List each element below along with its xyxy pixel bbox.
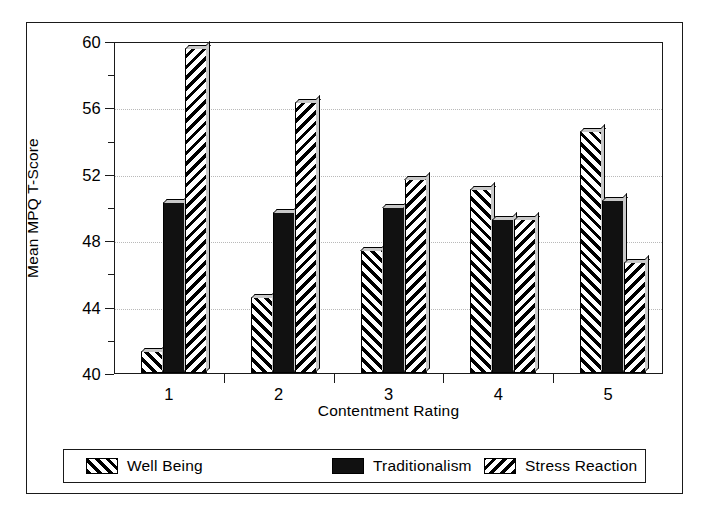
y-axis-tick-major <box>105 42 114 43</box>
y-axis-tick-major <box>105 108 114 109</box>
x-axis-tick-label: 5 <box>588 386 628 403</box>
y-axis-tick-major <box>105 175 114 176</box>
bar <box>514 219 536 373</box>
legend-swatch <box>332 458 364 474</box>
bar <box>580 131 602 373</box>
bar <box>492 219 514 373</box>
bar <box>273 212 295 373</box>
x-axis-tick-label: 4 <box>478 386 518 403</box>
bar-side-face <box>316 95 320 372</box>
legend-label: Well Being <box>127 457 203 475</box>
x-axis-tick <box>553 374 554 383</box>
bar-side-face <box>535 212 539 372</box>
bar <box>251 297 273 373</box>
y-axis-tick-minor <box>108 341 114 342</box>
x-axis-tick <box>334 374 335 383</box>
bar <box>141 351 163 373</box>
x-axis-tick <box>224 374 225 383</box>
y-axis-title-label: Mean MPQ T-Score <box>24 138 42 278</box>
x-axis-tick-label: 1 <box>149 386 189 403</box>
y-axis-tick-minor <box>108 208 114 209</box>
legend-swatch <box>86 458 118 474</box>
bars-layer <box>115 43 662 373</box>
y-axis-tick-label: 48 <box>61 233 101 250</box>
y-axis-title: Mean MPQ T-Score <box>22 42 44 374</box>
bar <box>361 250 383 373</box>
y-axis-tick-major <box>105 374 114 375</box>
y-axis-tick-minor <box>108 142 114 143</box>
bar <box>405 179 427 373</box>
legend-swatch <box>484 458 516 474</box>
legend-entry: Traditionalism <box>332 450 472 482</box>
legend-label: Stress Reaction <box>525 457 637 475</box>
y-axis-tick-label: 44 <box>61 299 101 316</box>
bar <box>383 207 405 373</box>
x-axis-title: Contentment Rating <box>114 402 663 420</box>
y-axis-tick-minor <box>108 75 114 76</box>
bar-side-face <box>426 172 430 372</box>
legend-label: Traditionalism <box>373 457 472 475</box>
y-axis-tick-major <box>105 241 114 242</box>
plot-area <box>114 42 663 374</box>
y-axis-tick-label: 40 <box>61 366 101 383</box>
x-axis-tick <box>443 374 444 383</box>
bar <box>163 202 185 373</box>
y-axis-tick-label: 56 <box>61 100 101 117</box>
bar-side-face <box>645 255 649 372</box>
y-axis-tick-label: 60 <box>61 34 101 51</box>
bar-side-face <box>206 41 210 372</box>
x-axis-tick-label: 2 <box>259 386 299 403</box>
bar <box>470 189 492 373</box>
bar <box>624 262 646 373</box>
y-axis-tick-minor <box>108 274 114 275</box>
y-axis-tick-label: 52 <box>61 167 101 184</box>
x-axis-tick-label: 3 <box>369 386 409 403</box>
legend-entry: Stress Reaction <box>484 450 637 482</box>
bar <box>185 48 207 373</box>
bar <box>602 200 624 373</box>
chart-legend: Well BeingTraditionalismStress Reaction <box>63 449 646 483</box>
figure-chart: Mean MPQ T-Score 404448525660 12345 Cont… <box>0 0 714 523</box>
bar <box>295 102 317 373</box>
y-axis-tick-major <box>105 308 114 309</box>
legend-entry: Well Being <box>86 450 203 482</box>
